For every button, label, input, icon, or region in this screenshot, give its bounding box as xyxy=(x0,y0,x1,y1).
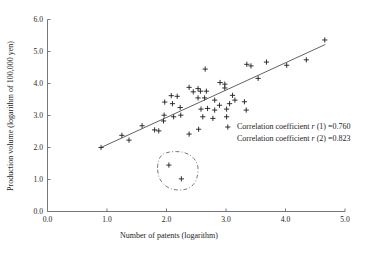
data-point-marker xyxy=(322,37,327,42)
data-point-marker xyxy=(162,99,167,104)
annotation-1-prefix: Correlation coefficient xyxy=(237,122,312,131)
data-point-marker xyxy=(170,101,175,106)
data-point-marker xyxy=(178,105,183,110)
data-point-marker xyxy=(227,101,232,106)
data-point-marker xyxy=(175,94,180,99)
data-point-marker xyxy=(205,106,210,111)
data-point-marker xyxy=(126,138,131,143)
data-point-marker xyxy=(230,93,235,98)
data-point-marker xyxy=(187,85,192,90)
trend-line xyxy=(101,44,325,147)
data-point-marker xyxy=(187,131,192,136)
x-tick-label: 0.0 xyxy=(43,215,53,224)
data-point-marker xyxy=(203,67,208,72)
data-point-marker xyxy=(242,99,247,104)
scatter-plot-figure: 0.01.02.03.04.05.00.01.02.03.04.05.06.0 … xyxy=(0,0,380,253)
outlier-enclosure-outline xyxy=(158,152,198,190)
data-point-marker xyxy=(178,113,183,118)
data-point-marker xyxy=(198,107,203,112)
x-axis-title: Number of patents (logarithm) xyxy=(120,231,218,240)
annotation-2-prefix: Correlation coefficient xyxy=(237,134,312,143)
axis-lines xyxy=(48,20,346,212)
data-point-marker xyxy=(212,98,217,103)
data-point-marker xyxy=(200,114,205,119)
data-point-marker xyxy=(224,114,229,119)
data-point-marker xyxy=(224,107,229,112)
regression-line xyxy=(101,44,325,147)
data-point-marker xyxy=(264,59,269,64)
y-tick-label: 4.0 xyxy=(34,79,44,88)
x-tick-label: 1.0 xyxy=(102,215,112,224)
data-point-marker xyxy=(232,98,237,103)
y-tick-label: 6.0 xyxy=(34,15,44,24)
data-point-marker xyxy=(225,124,230,129)
data-point-marker xyxy=(198,89,203,94)
annotation-2-rest: (2) =0.823 xyxy=(315,134,351,143)
data-point-marker xyxy=(162,113,167,118)
annotation-1-rest: (1) =0.760 xyxy=(315,122,351,131)
correlation-annotation-1: Correlation coefficient r (1) =0.760 xyxy=(237,122,350,131)
data-point-marker xyxy=(204,89,209,94)
data-point-marker xyxy=(244,107,249,112)
data-point-marker xyxy=(196,127,201,132)
y-tick-label: 0.0 xyxy=(34,207,44,216)
data-point-marker xyxy=(195,95,200,100)
x-tick-label: 2.0 xyxy=(162,215,172,224)
data-point-marker xyxy=(304,57,309,62)
x-tick-label: 5.0 xyxy=(340,215,350,224)
chart-canvas: 0.01.02.03.04.05.00.01.02.03.04.05.06.0 … xyxy=(0,0,380,253)
data-point-marker xyxy=(169,93,174,98)
data-point-marker xyxy=(212,107,217,112)
y-tick-label: 3.0 xyxy=(34,111,44,120)
correlation-annotation-2: Correlation coefficient r (2) =0.823 xyxy=(237,134,350,143)
x-tick-label: 4.0 xyxy=(281,215,291,224)
data-point-marker xyxy=(217,103,222,108)
outlier-point-marker xyxy=(166,163,171,168)
data-point-marker xyxy=(195,86,200,91)
data-point-marker xyxy=(210,116,215,121)
y-tick-label: 1.0 xyxy=(34,175,44,184)
y-tick-label: 2.0 xyxy=(34,143,44,152)
data-point-marker xyxy=(156,128,161,133)
y-tick-label: 5.0 xyxy=(34,47,44,56)
axis-ticks: 0.01.02.03.04.05.00.01.02.03.04.05.06.0 xyxy=(34,15,350,224)
outlier-point-marker xyxy=(179,176,184,181)
data-point-marker xyxy=(191,89,196,94)
outlier-enclosure xyxy=(158,152,198,190)
data-point-marker xyxy=(152,127,157,132)
data-point-marker xyxy=(217,80,222,85)
y-axis-title: Production volume (logarithm of 100,000 … xyxy=(6,41,15,191)
x-tick-label: 3.0 xyxy=(221,215,231,224)
